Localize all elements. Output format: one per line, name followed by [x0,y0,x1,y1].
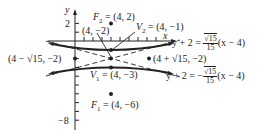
y-tick-label-2: 2 [65,19,70,29]
y-axis-label: y [65,5,69,15]
fraction: √1515 [203,68,217,85]
label-f2: F2 = (4, 2) [93,12,135,25]
point-f1 [109,92,113,96]
asymptote-lower-equation: y + 2 = −√1515(x − 4) [166,68,245,85]
label-f1: F1 = (4, −6) [91,100,139,113]
label-left-point: (4 − √15, −2) [8,54,61,64]
label-v2: V2 = (4, −1) [136,22,184,35]
label-center: (4, −2) [82,26,109,36]
point-center [109,57,113,61]
x-axis [48,37,177,43]
label-right-point: (4 + √15, −2) [153,54,206,64]
label-v1: V1 = (4, −3) [90,70,138,83]
fraction: √1515 [203,35,217,52]
y-tick-label-neg8: −8 [58,116,69,126]
point-v2 [109,48,113,52]
point-right [147,57,151,61]
asymptote-upper-equation: y + 2 = √1515(x − 4) [172,35,245,52]
point-left [73,57,77,61]
